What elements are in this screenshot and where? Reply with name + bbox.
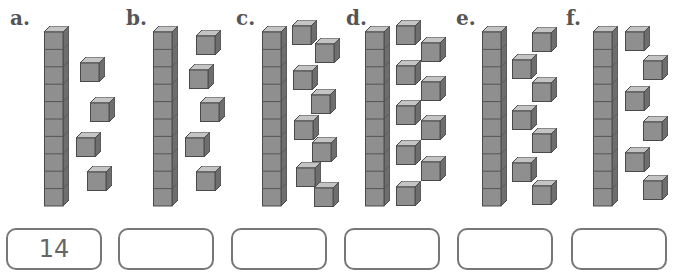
unit-cube-icon [421, 37, 446, 62]
answer-box[interactable] [457, 228, 553, 270]
unit-cube-icon [396, 100, 421, 125]
answer-box[interactable] [344, 228, 440, 270]
problem-label: b. [126, 6, 147, 30]
unit-cube-icon [512, 157, 537, 182]
unit-cube-icon [532, 180, 557, 205]
unit-cube-icon [293, 65, 318, 90]
unit-cube-icon [87, 166, 112, 191]
unit-cube-icon [76, 132, 101, 157]
unit-cube-icon [314, 182, 339, 207]
unit-cube-icon [532, 27, 557, 52]
problem-label: d. [346, 6, 367, 30]
ten-rod-icon [365, 26, 390, 207]
answer-box[interactable] [571, 228, 667, 270]
problem-label: f. [566, 6, 581, 30]
unit-cube-icon [396, 140, 421, 165]
ten-rod-icon [262, 26, 287, 207]
unit-cube-icon [80, 57, 105, 82]
unit-cube-icon [315, 38, 340, 63]
unit-cube-icon [292, 20, 317, 45]
unit-cube-icon [196, 166, 221, 191]
ten-rod-icon [153, 26, 178, 207]
unit-cube-icon [625, 86, 650, 111]
unit-cube-icon [312, 137, 337, 162]
unit-cube-icon [421, 156, 446, 181]
unit-cube-icon [643, 116, 668, 141]
answer-box[interactable]: 14 [6, 228, 102, 270]
unit-cube-icon [512, 105, 537, 130]
unit-cube-icon [625, 147, 650, 172]
unit-cube-icon [532, 128, 557, 153]
unit-cube-icon [189, 64, 214, 89]
unit-cube-icon [532, 77, 557, 102]
unit-cube-icon [90, 97, 115, 122]
answer-box[interactable] [118, 228, 214, 270]
unit-cube-icon [421, 76, 446, 101]
unit-cube-icon [196, 30, 221, 55]
unit-cube-icon [396, 20, 421, 45]
problem-label: a. [10, 6, 30, 30]
unit-cube-icon [643, 55, 668, 80]
unit-cube-icon [512, 54, 537, 79]
unit-cube-icon [200, 97, 225, 122]
unit-cube-icon [625, 26, 650, 51]
problem-label: c. [236, 6, 255, 30]
unit-cube-icon [643, 175, 668, 200]
ten-rod-icon [593, 26, 618, 207]
unit-cube-icon [396, 181, 421, 206]
unit-cube-icon [421, 115, 446, 140]
unit-cube-icon [311, 89, 336, 114]
unit-cube-icon [185, 132, 210, 157]
ten-rod-icon [482, 26, 507, 207]
unit-cube-icon [396, 60, 421, 85]
problem-label: e. [456, 6, 476, 30]
answer-box[interactable] [231, 228, 327, 270]
ten-rod-icon [44, 26, 69, 207]
